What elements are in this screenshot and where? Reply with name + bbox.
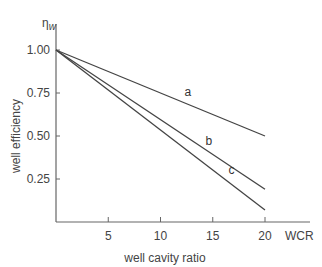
x-axis-title: well cavity ratio: [123, 251, 206, 265]
series-label-c: c: [228, 163, 234, 177]
series-label-a: a: [185, 85, 192, 99]
y-axis-title: well efficiency: [9, 99, 23, 174]
x-tick-label: 5: [105, 229, 112, 243]
y-tick-label: 0.25: [27, 172, 51, 186]
series-lines: abc: [56, 50, 265, 210]
series-label-b: b: [205, 134, 212, 148]
y-axis-symbol: ηw: [42, 16, 57, 32]
x-tick-label: 15: [206, 229, 220, 243]
series-line-a: [56, 50, 265, 136]
y-tick-label: 0.75: [27, 86, 51, 100]
y-tick-label: 0.50: [27, 129, 51, 143]
x-ticks: 5101520: [105, 217, 272, 243]
y-tick-label: 1.00: [27, 43, 51, 57]
x-tick-label: 10: [154, 229, 168, 243]
x-tick-label: 20: [258, 229, 272, 243]
chart: 0.250.500.751.00 5101520 abc ηw WCR well…: [0, 0, 322, 267]
series-line-c: [56, 50, 265, 210]
y-ticks: 0.250.500.751.00: [27, 43, 60, 186]
x-axis-unit: WCR: [285, 229, 314, 243]
